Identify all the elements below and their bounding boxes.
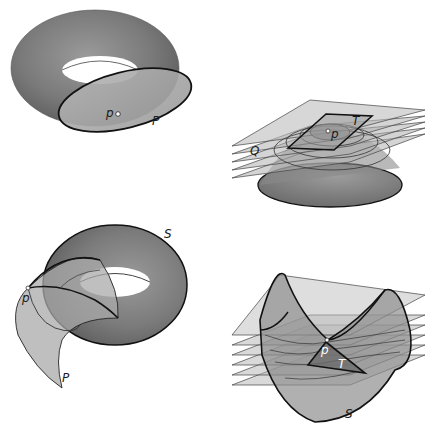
label-point-p: p <box>21 291 30 305</box>
label-point-p: p <box>320 343 329 357</box>
label-point-p: p <box>105 106 114 120</box>
label-surface-S: S <box>345 407 353 421</box>
label-surface-S: S <box>164 227 172 241</box>
label-plane-P: P <box>152 114 160 128</box>
label-level-Q: Q <box>250 144 259 158</box>
panel-saddle-level-planes: p T S <box>220 260 439 436</box>
point-p-marker <box>116 112 121 117</box>
point-p-marker <box>325 338 329 342</box>
figure-canvas: p P <box>0 0 439 436</box>
panel-paraboloid-level-planes: p T Q <box>220 90 439 220</box>
point-p-marker <box>26 286 30 290</box>
label-plane-P: P <box>62 371 70 385</box>
label-point-p: p <box>330 127 339 141</box>
panel-torus-tangent-plane: p P <box>0 0 220 140</box>
point-p-marker <box>326 129 330 133</box>
panel-torus-tangent-surface: p S P <box>0 210 220 400</box>
